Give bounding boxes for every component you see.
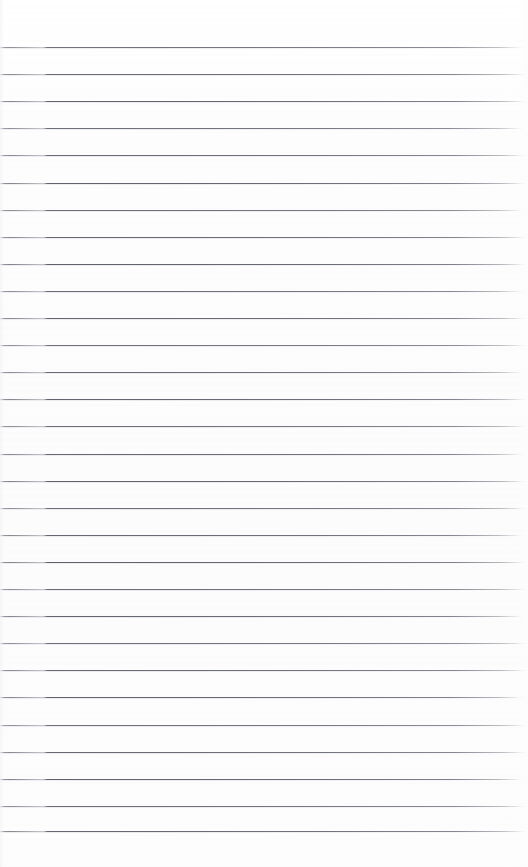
lined-paper-page [0,0,528,867]
writing-area[interactable] [0,0,528,867]
